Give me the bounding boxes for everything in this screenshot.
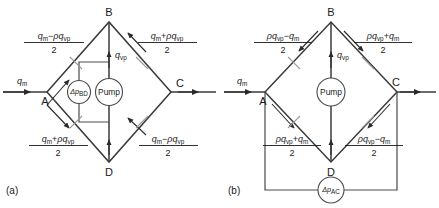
panel-b-bl-numerator: ρqvp+qm	[275, 134, 309, 146]
panel-a-caption: (a)	[6, 185, 18, 196]
panel-b-bl-denominator: 2	[289, 148, 294, 158]
panel-a-bl-numerator: qm+ρqvp	[42, 134, 75, 146]
panel-b-tl-n1: ρq	[266, 31, 277, 41]
panel-a-tl-s2: vp	[64, 35, 71, 43]
panel-b-inlet-label: qm	[237, 76, 247, 87]
panel-b-br-s2: m	[385, 138, 390, 145]
panel-a-tr-numerator: qm+ρqvp	[151, 31, 184, 43]
panel-a-tl-n2: ρq	[52, 31, 63, 41]
panel-b-tl-s2: m	[294, 35, 299, 42]
panel-a-node-d-label: D	[105, 166, 113, 178]
panel-a-tl-numerator: qm−ρqvp	[38, 31, 71, 43]
panel-b-bl-n1: ρq	[275, 134, 286, 144]
panel-b-node-c-label: C	[392, 76, 400, 88]
panel-a-label-bottom-right: qm−ρqvp 2	[139, 134, 198, 158]
panel-b-arrow-ad	[272, 104, 294, 128]
panel-a: B A C D qm qvp ΔpBD Pump qm−ρqvp	[3, 6, 216, 196]
panel-b-node-a-label: A	[259, 95, 267, 107]
panel-a-tick-dc	[136, 116, 148, 128]
panel-b-label-top-right: ρqvp+qm 2	[354, 31, 412, 55]
panel-b-arrow-cd	[368, 104, 390, 128]
panel-a-br-numerator: qm−ρqvp	[152, 134, 185, 146]
panel-a-bl-n2: ρq	[56, 134, 67, 144]
panel-b-br-numerator: ρqvp−qm	[357, 134, 391, 146]
panel-b-br-denominator: 2	[371, 148, 376, 158]
panel-b-tr-n1: ρq	[366, 31, 377, 41]
panel-a-arrow-ab	[47, 80, 69, 105]
panel-a-tr-n2: ρq	[165, 31, 176, 41]
panel-b-tick-ba	[288, 57, 300, 69]
flow-diagram-svg: B A C D qm qvp ΔpBD Pump qm−ρqvp	[0, 0, 439, 208]
panel-a-inlet-label: qm	[17, 76, 27, 87]
panel-b-br-n1: ρq	[357, 134, 368, 144]
panel-b-arrow-ba	[299, 31, 318, 51]
panel-a-dp-prefix: Δp	[69, 87, 79, 96]
panel-b-node-b-label: B	[327, 6, 334, 18]
panel-a-br-n2: ρq	[166, 134, 177, 144]
panel-a-tr-s2: vp	[177, 35, 184, 43]
panel-b-node-d-label: D	[327, 166, 335, 178]
panel-a-br-s2: vp	[178, 138, 185, 146]
panel-b-tr-numerator: ρqvp+qm	[366, 31, 400, 43]
panel-b-vert-sub: vp	[342, 54, 349, 62]
panel-a-arrow-ad	[47, 105, 69, 128]
panel-b-caption: (b)	[228, 185, 240, 196]
panel-b-vertical-label: qvp	[337, 50, 349, 62]
panel-a-inlet-sub: m	[22, 80, 27, 87]
panel-a-node-b-label: B	[105, 6, 112, 18]
panel-a-br-denominator: 2	[165, 148, 170, 158]
panel-b-tl-numerator: ρqvp−qm	[266, 31, 300, 43]
panel-a-label-top-left: qm−ρqvp 2	[24, 31, 84, 55]
panel-b-label-bottom-left: ρqvp+qm 2	[263, 134, 321, 158]
panel-a-label-bottom-left: qm+ρqvp 2	[29, 134, 88, 158]
panel-b-pump-label: Pump	[320, 87, 342, 97]
panel-b-tr-s2: m	[394, 35, 399, 42]
panel-a-node-a-label: A	[41, 95, 49, 107]
panel-b-tr-denominator: 2	[380, 45, 385, 55]
figure-root: B A C D qm qvp ΔpBD Pump qm−ρqvp	[0, 0, 439, 208]
panel-a-pump-label: Pump	[98, 87, 120, 97]
panel-a-node-c-label: C	[176, 77, 184, 89]
panel-a-bl-s2: vp	[68, 138, 75, 146]
panel-a-dp-sub: BD	[79, 90, 88, 97]
panel-b-dp-prefix: Δp	[321, 185, 331, 194]
panel-a-tl-denominator: 2	[51, 45, 56, 55]
panel-a-tr-denominator: 2	[164, 45, 169, 55]
panel-b-bl-s2: m	[303, 138, 308, 145]
panel-b-dp-sub: AC	[331, 188, 340, 195]
panel-b-tl-denominator: 2	[280, 45, 285, 55]
panel-b-tick-bc	[362, 57, 374, 69]
panel-b: B A C D qm qvp Pump ΔpAC ρqvp−qm	[224, 6, 436, 203]
panel-a-bl-denominator: 2	[55, 148, 60, 158]
panel-a-vert-sub: vp	[120, 54, 127, 62]
panel-b-inlet-sub: m	[242, 80, 247, 87]
panel-b-arrow-bc	[344, 31, 363, 51]
panel-a-label-top-right: qm+ρqvp 2	[138, 31, 197, 55]
panel-b-tick-cd	[362, 116, 374, 128]
panel-a-vertical-label: qvp	[115, 50, 127, 62]
